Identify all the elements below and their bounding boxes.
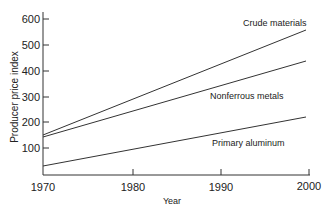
x-tick-labels: 1970 1980 1990 2000 (31, 180, 321, 193)
x-tick-label: 1990 (209, 181, 233, 193)
y-tick-labels: 600 500 400 300 200 100 (22, 13, 40, 154)
x-axis-title: Year (163, 196, 181, 206)
y-tick-label: 300 (22, 91, 40, 103)
series-label-primary-aluminum: Primary aluminum (212, 138, 285, 148)
x-tick-label: 1980 (121, 181, 145, 193)
y-axis-title: Producer price index (9, 51, 20, 143)
y-tick-label: 200 (22, 116, 40, 128)
series-line-crude-materials (43, 30, 306, 135)
x-ticks (133, 169, 309, 175)
series-label-crude-materials: Crude materials (243, 18, 307, 28)
y-tick-label: 100 (22, 142, 40, 154)
y-tick-label: 600 (22, 13, 40, 25)
y-tick-label: 500 (22, 39, 40, 51)
line-chart: 600 500 400 300 200 100 1970 1980 1990 2… (0, 0, 331, 214)
series-label-nonferrous-metals: Nonferrous metals (210, 91, 284, 101)
series-labels: Crude materials Nonferrous metals Primar… (210, 18, 307, 148)
x-tick-label: 1970 (31, 181, 55, 193)
y-tick-label: 400 (22, 65, 40, 77)
x-tick-label: 2000 (297, 180, 321, 192)
y-ticks (43, 19, 49, 148)
